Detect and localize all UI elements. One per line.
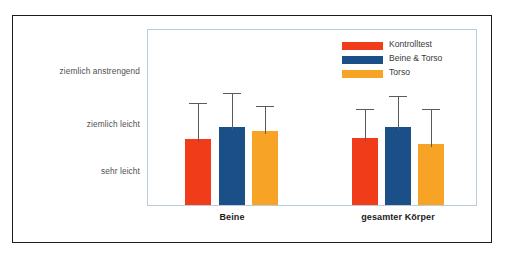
plot-area: Kontrolltest Beine & Torso Torso bbox=[147, 29, 477, 206]
errorbar-stem-gesamter-koerper-torso bbox=[431, 109, 432, 147]
errorbar-cap-gesamter-koerper-kontrolltest bbox=[356, 109, 374, 110]
bar-gesamter-koerper-beine-torso bbox=[385, 127, 411, 205]
legend-label-kontrolltest: Kontrolltest bbox=[389, 39, 432, 49]
y-axis-label-ziemlich-anstrengend: ziemlich anstrengend bbox=[22, 66, 140, 76]
errorbar-cap-beine-beine-torso bbox=[223, 93, 241, 94]
legend-swatch-kontrolltest bbox=[342, 42, 383, 50]
bar-beine-kontrolltest bbox=[185, 139, 211, 205]
y-axis-label-sehr-leicht: sehr leicht bbox=[22, 166, 140, 176]
errorbar-cap-gesamter-koerper-beine-torso bbox=[389, 96, 407, 97]
legend-label-torso: Torso bbox=[389, 67, 410, 77]
errorbar-stem-gesamter-koerper-beine-torso bbox=[398, 96, 399, 130]
bar-gesamter-koerper-torso bbox=[418, 144, 444, 205]
errorbar-stem-gesamter-koerper-kontrolltest bbox=[365, 109, 366, 141]
x-axis-label-beine: Beine bbox=[172, 212, 292, 222]
bar-beine-torso bbox=[252, 131, 278, 205]
x-axis-label-gesamter-koerper: gesamter Körper bbox=[338, 212, 458, 222]
bar-beine-beine-torso bbox=[219, 127, 245, 205]
y-axis-label-ziemlich-leicht: ziemlich leicht bbox=[22, 119, 140, 129]
errorbar-stem-beine-beine-torso bbox=[232, 93, 233, 130]
bar-gesamter-koerper-kontrolltest bbox=[352, 138, 378, 205]
errorbar-cap-gesamter-koerper-torso bbox=[422, 109, 440, 110]
errorbar-stem-beine-torso bbox=[265, 106, 266, 134]
legend-swatch-beine-torso bbox=[342, 56, 383, 64]
legend-label-beine-torso: Beine & Torso bbox=[389, 53, 442, 63]
errorbar-cap-beine-torso bbox=[256, 106, 274, 107]
chart-figure: ziemlich anstrengend ziemlich leicht seh… bbox=[0, 0, 509, 255]
legend-swatch-torso bbox=[342, 70, 383, 78]
errorbar-cap-beine-kontrolltest bbox=[189, 103, 207, 104]
errorbar-stem-beine-kontrolltest bbox=[198, 103, 199, 142]
